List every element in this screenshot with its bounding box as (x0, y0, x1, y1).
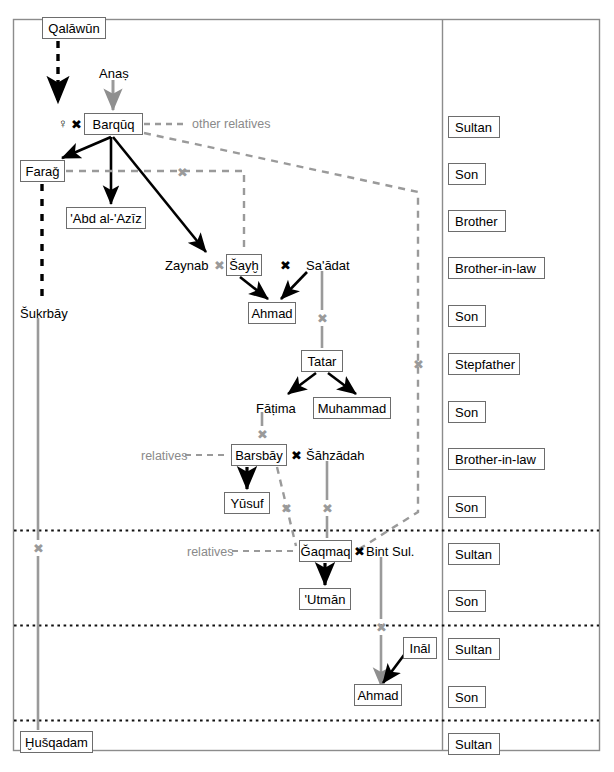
marriage-cross-sukrbay-icon: ✖ (33, 542, 44, 555)
role-box-sultan-2: Sultan (448, 543, 500, 565)
marriage-cross-farag-icon: ✖ (177, 166, 188, 179)
marriage-cross-barsbay-icon: ✖ (291, 449, 302, 462)
label-sukrbay: Šukrbāy (20, 307, 68, 320)
node-ahmad-2[interactable]: Ahmad (354, 684, 402, 706)
node-qalawun[interactable]: Qalāwūn (42, 17, 106, 39)
role-box-stepfather: Stepfather (448, 353, 520, 375)
edge-barquq-gaqmaq-relatives (144, 133, 418, 551)
label-other-relatives: other relatives (192, 118, 271, 131)
marriage-cross-right-route-icon: ✖ (413, 358, 424, 371)
edge-inal-ahmad2 (383, 655, 404, 683)
label-fatima: Fāṭima (256, 402, 296, 415)
role-box-brother-in-law-1: Brother-in-law (448, 257, 545, 279)
edges-barquq-children (62, 137, 206, 252)
female-symbol-icon: ♀ (58, 117, 68, 130)
node-yusuf[interactable]: Yūsuf (224, 492, 270, 514)
node-barquq[interactable]: Barqūq (84, 113, 143, 135)
marriage-cross-zaynab-icon: ✖ (214, 259, 225, 272)
label-zaynab: Zaynab (165, 259, 208, 272)
node-barsbay[interactable]: Barsbāy (231, 444, 287, 466)
marriage-cross-sahzadah-icon: ✖ (322, 502, 333, 515)
label-anas: Anaṣ (99, 67, 129, 80)
role-box-son-2: Son (448, 305, 486, 327)
marriage-cross-saadat-icon: ✖ (317, 312, 328, 325)
edges-ahmad1-parents (240, 272, 307, 299)
role-box-son-6: Son (448, 686, 486, 708)
role-box-sultan-3: Sultan (448, 638, 500, 660)
node-sayh[interactable]: Šayḫ (226, 254, 262, 276)
role-box-sultan-1: Sultan (448, 116, 500, 138)
marriage-cross-yusuf-icon: ✖ (281, 502, 292, 515)
marriage-cross-bintsul-icon: ✖ (376, 621, 387, 634)
node-inal[interactable]: Ināl (403, 637, 437, 659)
role-box-son-4: Son (448, 496, 486, 518)
marriage-cross-sayh-icon: ✖ (280, 259, 291, 272)
node-utman[interactable]: 'Utmān (299, 588, 351, 610)
role-box-brother: Brother (448, 210, 506, 232)
node-muhammad[interactable]: Muhammad (313, 397, 391, 419)
label-sahzadah: Šāhzādah (306, 449, 365, 462)
role-box-brother-in-law-2: Brother-in-law (448, 448, 545, 470)
role-box-son-1: Son (448, 163, 486, 185)
node-abd-al-aziz[interactable]: 'Abd al-'Azīz (66, 207, 146, 229)
label-relatives-gaqmaq: relatives (187, 546, 234, 559)
node-tatar[interactable]: Tatar (301, 350, 343, 372)
node-husqadam[interactable]: Ḫušqadam (20, 731, 93, 753)
node-ahmad-1[interactable]: Ahmad (248, 302, 296, 324)
role-box-son-5: Son (448, 590, 486, 612)
node-farag[interactable]: Faraǧ (20, 160, 65, 182)
figure-root: Qalāwūn Barqūq Faraǧ 'Abd al-'Azīz Šayḫ … (0, 0, 614, 772)
edges-tatar-children (288, 373, 356, 394)
role-box-sultan-4: Sultan (448, 733, 500, 755)
marriage-cross-barquq-icon: ✖ (71, 118, 82, 131)
marriage-cross-fatima-icon: ✖ (257, 428, 268, 441)
label-relatives-barsbay: relatives (141, 450, 188, 463)
node-gaqmaq[interactable]: Ǧaqmaq (299, 540, 352, 562)
label-saadat: Sa'ādat (306, 259, 350, 272)
marriage-cross-gaqmaq-icon: ✖ (354, 545, 365, 558)
label-bint-sul: Bint Sul. (366, 545, 414, 558)
role-box-son-3: Son (448, 401, 486, 423)
